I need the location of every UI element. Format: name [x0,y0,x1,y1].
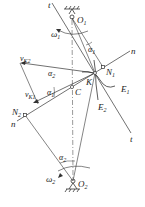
tangent-line-t [52,3,131,133]
label-c: C [75,87,82,97]
point-n2 [24,114,27,117]
label-n2: N2 [11,107,21,118]
label-alpha2-bottom: α2 [59,153,66,163]
point-n1 [102,66,105,69]
radius-o2-n2 [25,115,73,181]
label-t-top: t [48,0,51,10]
label-e1: E1 [120,84,130,95]
point-k [94,72,97,75]
label-alpha1-left: α1 [47,88,54,98]
profile-e2 [94,60,98,100]
gear-mesh-diagram: O1 O2 ω1 ω2 α1 α2 α1 α2 vK2 vK1 N1 N2 K … [0,0,145,207]
label-e2: E2 [97,102,107,113]
omega1-arc [58,30,88,34]
label-t-bottom: t [130,134,133,144]
label-o2: O2 [78,179,88,190]
label-n-top: n [131,46,136,56]
label-vk1: vK1 [25,90,36,100]
point-c [70,85,73,88]
radius-o1-n1 [72,18,103,67]
label-vk2: vK2 [20,54,31,64]
label-n-bottom: n [11,119,16,129]
omega2-arrow-icon [58,173,63,178]
label-alpha1-top: α1 [88,45,95,55]
label-alpha2-mid: α2 [48,69,55,79]
label-omega2: ω2 [46,174,55,185]
label-o1: O1 [77,15,87,26]
label-n1: N1 [105,67,115,78]
label-k: K [85,77,93,87]
center-line [72,20,73,179]
